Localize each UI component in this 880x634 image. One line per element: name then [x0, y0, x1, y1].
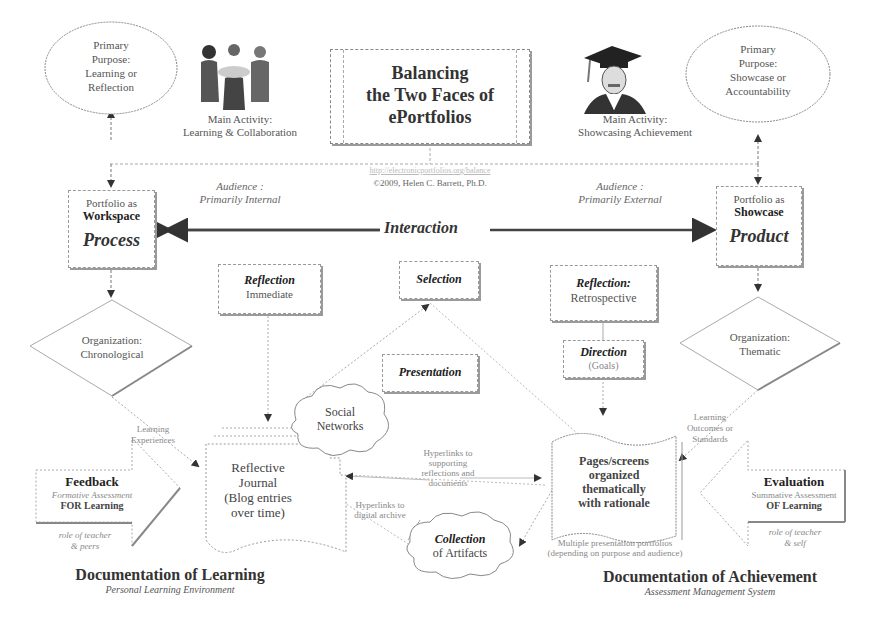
evaluation-arrow: Evaluation Summative Assessment OF Learn…	[740, 474, 848, 511]
right-audience-label: Audience :	[550, 180, 690, 193]
pages-note-line: (depending on purpose and audience)	[530, 548, 700, 558]
flow-label-line: Experiences	[118, 435, 188, 446]
direction-subtitle: (Goals)	[564, 360, 643, 371]
collection-title: Collection	[420, 532, 500, 546]
reflection-immediate-title: Reflection	[219, 273, 320, 288]
hyperlinks-line: documents	[408, 478, 488, 488]
right-organization-value: Thematic	[700, 344, 820, 358]
learning-outcomes-label: Learning Outcomes or Standards	[670, 412, 750, 445]
left-audience: Audience : Primarily Internal	[170, 180, 310, 206]
left-audience-label: Audience :	[170, 180, 310, 193]
left-purpose: Primary Purpose: Learning or Reflection	[55, 38, 167, 94]
pages-note: Multiple presentation portfolios (depend…	[530, 538, 700, 558]
journal-line: (Blog entries	[208, 490, 308, 505]
feedback-role: role of teacher & peers	[40, 530, 130, 552]
selection-label: Selection	[400, 272, 478, 287]
right-organization: Organization: Thematic	[700, 330, 820, 358]
right-audience-value: Primarily External	[550, 193, 690, 206]
right-purpose-line: Accountability	[700, 84, 816, 98]
product-label: Product	[717, 226, 801, 247]
workspace-caption: Portfolio as	[69, 197, 154, 209]
showcase-caption: Portfolio as	[717, 193, 801, 205]
left-organization-label: Organization:	[50, 333, 174, 347]
left-purpose-line: Primary	[55, 38, 167, 52]
feedback-role-line: role of teacher	[40, 530, 130, 541]
process-label: Process	[69, 230, 154, 251]
journal-line: over time)	[208, 505, 308, 520]
left-purpose-line: Learning or	[55, 66, 167, 80]
collection-subtitle: of Artifacts	[420, 546, 500, 560]
evaluation-role-line: & self	[750, 538, 840, 549]
social-networks-cloud: Social Networks	[300, 405, 380, 433]
collection-cloud: Collection of Artifacts	[420, 532, 500, 560]
hyperlinks-line: reflections and	[408, 468, 488, 478]
interaction-label: Interaction	[384, 219, 458, 237]
hyperlinks-line: Hyperlinks to	[408, 448, 488, 458]
left-footer: Documentation of Learning Personal Learn…	[40, 566, 300, 595]
flow-label-line: Standards	[670, 434, 750, 445]
left-audience-value: Primarily Internal	[170, 193, 310, 206]
workspace-box: Portfolio as Workspace Process	[68, 190, 155, 268]
selection-box: Selection	[399, 261, 479, 299]
journal-line: Journal	[208, 475, 308, 490]
evaluation-title: Evaluation	[740, 474, 848, 490]
social-line: Social	[300, 405, 380, 419]
hyperlinks-line: supporting	[408, 458, 488, 468]
reflection-immediate-subtitle: Immediate	[219, 288, 320, 300]
title-line-3: ePortfolios	[331, 106, 529, 128]
right-footer-subtitle: Assessment Management System	[560, 586, 860, 597]
flow-label-line: Learning	[670, 412, 750, 423]
right-activity-value: Showcasing Achievement	[570, 126, 700, 139]
left-organization-value: Chronological	[50, 347, 174, 361]
right-activity-label: Main Activity:	[570, 113, 700, 126]
left-activity: Main Activity: Learning & Collaboration	[175, 113, 305, 139]
title-line-2: the Two Faces of	[331, 84, 529, 106]
reflection-retrospective-title: Reflection:	[551, 276, 656, 291]
flow-label-line: Learning	[118, 424, 188, 435]
reflection-retrospective-subtitle: Retrospective	[551, 291, 656, 306]
title-credit: ©2009, Helen C. Barrett, Ph.D.	[320, 178, 540, 188]
right-organization-label: Organization:	[700, 330, 820, 344]
title-box: Balancing the Two Faces of ePortfolios	[330, 49, 530, 144]
direction-title: Direction	[564, 345, 643, 360]
right-footer: Documentation of Achievement Assessment …	[560, 568, 860, 597]
presentation-box: Presentation	[382, 354, 478, 392]
hyperlinks-line: digital archive	[340, 510, 420, 520]
evaluation-of-learning: OF Learning	[740, 500, 848, 511]
feedback-arrow: Feedback Formative Assessment FOR Learni…	[36, 474, 148, 511]
evaluation-role-line: role of teacher	[750, 527, 840, 538]
left-activity-label: Main Activity:	[175, 113, 305, 126]
flow-label-line: Outcomes or	[670, 423, 750, 434]
pages-screens: Pages/screens organized thematically wit…	[552, 454, 676, 510]
hyperlinks-line: Hyperlinks to	[340, 500, 420, 510]
showcase-box: Portfolio as Showcase Product	[716, 186, 802, 266]
hyperlinks-digital-label: Hyperlinks to digital archive	[340, 500, 420, 520]
journal-line: Reflective	[208, 460, 308, 475]
hyperlinks-supporting-label: Hyperlinks to supporting reflections and…	[408, 448, 488, 488]
group-collaboration-icon	[197, 40, 272, 110]
right-audience: Audience : Primarily External	[550, 180, 690, 206]
feedback-for-learning: FOR Learning	[36, 500, 148, 511]
feedback-title: Feedback	[36, 474, 148, 490]
title-url[interactable]: http://electronicportfolios.org/balance	[320, 166, 540, 175]
direction-box: Direction (Goals)	[563, 340, 644, 378]
right-purpose-line: Primary	[700, 42, 816, 56]
right-purpose-line: Showcase or	[700, 70, 816, 84]
workspace-label: Workspace	[69, 209, 154, 224]
pages-line: Pages/screens	[552, 454, 676, 468]
reflective-journal: Reflective Journal (Blog entries over ti…	[208, 460, 308, 520]
right-purpose: Primary Purpose: Showcase or Accountabil…	[700, 42, 816, 98]
right-footer-title: Documentation of Achievement	[560, 568, 860, 586]
left-footer-subtitle: Personal Learning Environment	[40, 584, 300, 595]
pages-line: with rationale	[552, 496, 676, 510]
feedback-subtitle: Formative Assessment	[36, 490, 148, 500]
pages-note-line: Multiple presentation portfolios	[530, 538, 700, 548]
evaluation-subtitle: Summative Assessment	[740, 490, 848, 500]
left-purpose-line: Reflection	[55, 80, 167, 94]
showcase-label: Showcase	[717, 205, 801, 220]
reflection-immediate-box: Reflection Immediate	[218, 264, 321, 314]
reflection-retrospective-box: Reflection: Retrospective	[550, 265, 657, 321]
presentation-label: Presentation	[383, 365, 477, 380]
graduate-icon	[582, 40, 652, 115]
feedback-role-line: & peers	[40, 541, 130, 552]
